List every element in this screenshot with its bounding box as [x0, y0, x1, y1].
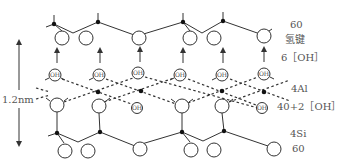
- scale-bar-label: 1.2nm: [2, 95, 34, 105]
- label-bottom-oxygen: 60: [292, 144, 305, 154]
- top-si-atoms: [52, 19, 225, 26]
- lower-hydroxyl-atoms: [132, 103, 268, 114]
- al-atoms: [96, 89, 267, 95]
- svg-text:OH: OH: [132, 104, 142, 111]
- structure-drawing: OH OH OH OH OH OH OH O: [0, 0, 337, 168]
- octahedral-dashed-bonds: [36, 77, 290, 108]
- svg-text:OH: OH: [257, 104, 267, 111]
- label-si-layer: 4Si: [290, 129, 306, 139]
- svg-text:OH: OH: [259, 70, 269, 77]
- top-tetrahedral-sheet: [46, 12, 272, 36]
- upper-hydroxyl-atoms: [49, 67, 270, 81]
- upper-oh-text: OH OH OH OH OH OH: [50, 69, 269, 78]
- top-oxygen-atoms: [55, 29, 271, 45]
- label-o-oh-layer: 40+2［OH］: [277, 102, 337, 112]
- label-oh-layer: 6［OH］: [281, 53, 324, 63]
- bottom-tetrahedral-sheet: [48, 112, 268, 146]
- svg-text:OH: OH: [94, 71, 104, 78]
- bottom-oxygen-atoms: [58, 142, 281, 158]
- label-al-layer: 4Al: [291, 84, 308, 94]
- bottom-si-atoms: [55, 129, 226, 135]
- label-top-oxygen: 60: [290, 20, 303, 30]
- hydrogen-bond-arrows: [57, 49, 264, 63]
- upper-hydroxyl-ticks: [45, 77, 274, 80]
- clay-structure-diagram: OH OH OH OH OH OH OH O: [0, 0, 337, 168]
- svg-text:OH: OH: [217, 71, 227, 78]
- svg-text:OH: OH: [133, 69, 143, 76]
- svg-text:OH: OH: [50, 71, 60, 78]
- svg-text:OH: OH: [175, 71, 185, 78]
- label-hydrogen-bond: 氢键: [285, 35, 305, 45]
